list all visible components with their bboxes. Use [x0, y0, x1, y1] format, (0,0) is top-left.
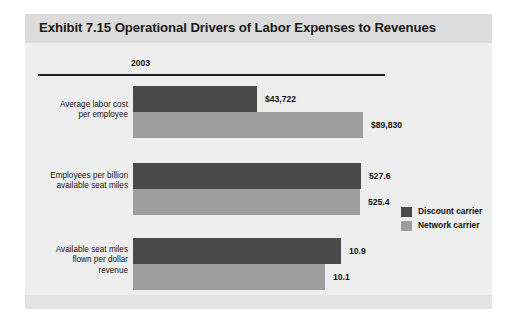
legend-label: Discount carrier — [418, 206, 482, 216]
bar-group: Available seat milesflown per dollarreve… — [25, 236, 492, 298]
bar-network — [133, 189, 360, 215]
bar-network — [133, 264, 325, 290]
bar-network — [133, 112, 363, 138]
bar-value-discount: 527.6 — [369, 171, 391, 181]
figure-panel: Exhibit 7.15 Operational Drivers of Labo… — [25, 14, 492, 295]
legend-swatch-icon — [401, 207, 412, 217]
legend-swatch-icon — [401, 221, 412, 231]
legend: Discount carrier Network carrier — [401, 206, 511, 234]
legend-item-discount: Discount carrier — [401, 206, 511, 218]
column-header-year: 2003 — [131, 58, 150, 68]
bar-value-discount: $43,722 — [265, 94, 296, 104]
axis-rule — [38, 74, 385, 76]
bar-group: Average labor costper employee $43,722 $… — [25, 84, 492, 146]
bar-discount — [133, 163, 361, 189]
bar-group-label: Available seat milesflown per dollarreve… — [30, 245, 128, 276]
title-band: Exhibit 7.15 Operational Drivers of Labo… — [25, 14, 492, 43]
bar-discount — [133, 238, 341, 264]
bar-value-discount: 10.9 — [349, 246, 366, 256]
legend-item-network: Network carrier — [401, 220, 511, 232]
bar-group-label: Employees per billionavailable seat mile… — [30, 171, 128, 192]
plot-area: 2003 Average labor costper employee $43,… — [25, 43, 492, 295]
exhibit-title: Exhibit 7.15 Operational Drivers of Labo… — [39, 20, 436, 35]
footer-band — [25, 295, 492, 309]
legend-label: Network carrier — [418, 220, 479, 230]
bar-discount — [133, 86, 257, 112]
bar-group-label: Average labor costper employee — [30, 100, 128, 121]
bar-value-network: $89,830 — [371, 120, 402, 130]
bar-value-network: 10.1 — [333, 272, 350, 282]
bar-value-network: 525.4 — [368, 197, 390, 207]
